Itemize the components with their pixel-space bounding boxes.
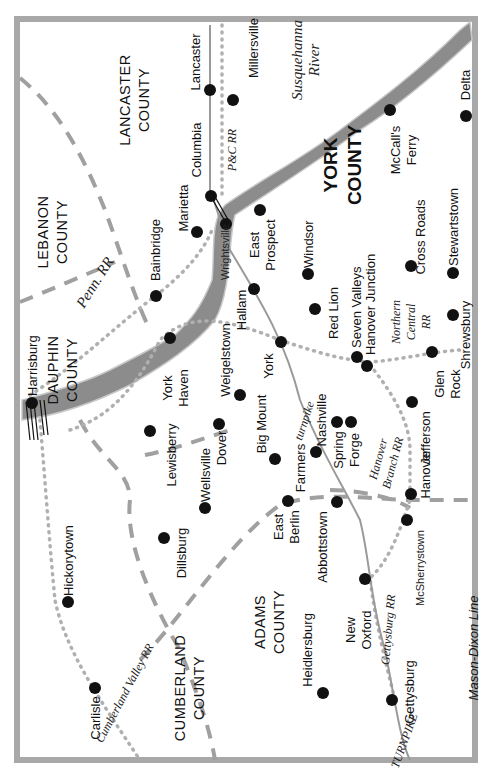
label-pc-rr: P&C RR — [225, 128, 239, 172]
label-bainbridge: Bainbridge — [148, 219, 163, 281]
label-seven-valleys: Seven Valleys — [349, 266, 364, 348]
label-mcsherrystown: McSherrystown — [414, 530, 426, 606]
dot-mcsherrystown[interactable] — [401, 514, 413, 526]
label-farmers: Farmers — [293, 443, 308, 492]
dot-dillsburg[interactable] — [158, 532, 170, 544]
label-lewisberry: Lewisberry — [164, 423, 179, 486]
label-nashville: Nashville — [314, 394, 329, 447]
svg-text:EastBerlin: EastBerlin — [271, 510, 302, 543]
label-weigelstown: Weigelstown — [218, 323, 233, 396]
county-lebanon: LEBANON — [35, 196, 51, 269]
label-cross-roads: Cross Roads — [413, 199, 428, 275]
dot-windsor[interactable] — [302, 268, 314, 280]
label-york: York — [261, 353, 276, 379]
dot-hanover-junction[interactable] — [361, 360, 373, 372]
label-northern-central: Northern — [389, 300, 403, 345]
dot-delta[interactable] — [460, 110, 472, 122]
dot-carlisle[interactable] — [89, 682, 101, 694]
dot-weigelstown[interactable] — [234, 389, 246, 401]
dot-mccalls-ferry[interactable] — [384, 104, 396, 116]
label-shrewsbury: Shrewsbury — [458, 300, 473, 369]
label-spring-forge: Spring — [331, 431, 346, 469]
dot-columbia[interactable] — [205, 190, 217, 202]
label-red-lion: Red Lion — [326, 287, 341, 339]
dot-york-haven[interactable] — [164, 332, 176, 344]
label-dillsburg: Dillsburg — [174, 528, 189, 579]
label-mccalls-ferry: McCall's — [388, 125, 403, 174]
svg-text:SpringForge: SpringForge — [331, 431, 362, 469]
dot-east-prospect[interactable] — [254, 204, 266, 216]
dot-nashville[interactable] — [331, 416, 343, 428]
label-wrightsville: Wrightsville — [219, 224, 231, 280]
dot-hallam[interactable] — [248, 283, 260, 295]
label-delta: Delta — [458, 69, 473, 100]
dot-big-mount[interactable] — [269, 453, 281, 465]
label-east-prospect: East — [247, 232, 262, 258]
dot-spring-forge[interactable] — [345, 416, 357, 428]
dot-jefferson[interactable] — [406, 396, 418, 408]
label-mason-dixon: Mason-Dixon Line — [466, 596, 481, 701]
dot-lancaster[interactable] — [204, 84, 216, 96]
label-wellsville: Wellsville — [198, 448, 213, 502]
label-heidlersburg: Heidlersburg — [300, 613, 315, 687]
label-millersville: Millersville — [246, 18, 261, 78]
dot-stewartstown[interactable] — [447, 267, 459, 279]
label-lancaster: Lancaster — [188, 33, 203, 91]
dot-new-oxford[interactable] — [359, 573, 371, 585]
county-lancaster-line1: LANCASTER — [117, 54, 133, 146]
dot-glen-rock[interactable] — [426, 346, 438, 358]
label-york-haven: York — [160, 375, 175, 401]
dot-harrisburg[interactable] — [26, 397, 38, 409]
dot-hickorytown[interactable] — [62, 596, 74, 608]
label-columbia: Columbia — [189, 122, 204, 178]
label-big-mount: Big Mount — [254, 394, 269, 453]
svg-text:GlenRock: GlenRock — [432, 369, 463, 399]
dot-marietta[interactable] — [191, 226, 203, 238]
label-marietta: Marietta — [176, 184, 191, 232]
label-glen-rock: Glen — [432, 370, 447, 397]
county-dauphin: DAUPHIN — [45, 336, 61, 405]
dot-lewisberry[interactable] — [144, 425, 156, 437]
dot-heidlersburg[interactable] — [317, 687, 329, 699]
dot-east-berlin[interactable] — [282, 495, 294, 507]
county-adams: ADAMS — [252, 595, 268, 649]
label-harrisburg: Harrisburg — [25, 335, 40, 396]
label-hanover: Hanover — [418, 449, 433, 499]
county-cumberland: CUMBERLAND — [172, 635, 188, 742]
label-windsor: Windsor — [301, 220, 316, 268]
label-east-berlin: East — [271, 514, 286, 540]
county-york: YORK — [320, 137, 341, 192]
dot-gettysburg[interactable] — [386, 694, 398, 706]
dot-bainbridge[interactable] — [150, 290, 162, 302]
dot-dover[interactable] — [213, 418, 225, 430]
label-abbottstown: Abbottstown — [315, 511, 330, 583]
label-dover: Dover — [214, 430, 229, 465]
label-hickorytown: Hickorytown — [61, 525, 76, 596]
dot-abbottstown[interactable] — [331, 496, 343, 508]
label-hallam: Hallam — [234, 290, 249, 330]
dot-hanover[interactable] — [405, 488, 417, 500]
label-hanover-junction: Hanover Junction — [363, 254, 378, 355]
dot-seven-valleys[interactable] — [351, 351, 363, 363]
dot-wellsville[interactable] — [199, 502, 211, 514]
dot-red-lion[interactable] — [309, 303, 321, 315]
label-stewartstown: Stewartstown — [446, 188, 461, 266]
dot-millersville[interactable] — [227, 94, 239, 106]
label-susquehanna: Susquehanna — [289, 20, 305, 100]
label-new-oxford: New — [343, 616, 358, 643]
dot-farmers[interactable] — [310, 446, 322, 458]
dot-york[interactable] — [275, 336, 287, 348]
historical-map: LANCASTERCOUNTY LEBANONCOUNTY DAUPHINCOU… — [0, 0, 495, 783]
